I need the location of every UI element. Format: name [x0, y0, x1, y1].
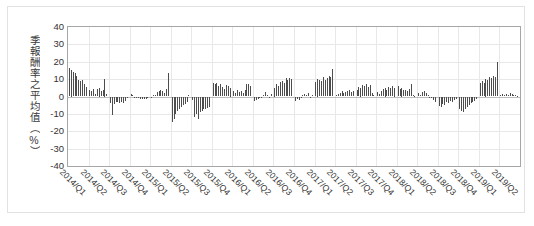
- bar: [414, 96, 415, 97]
- bar: [491, 78, 492, 96]
- bar: [160, 90, 161, 97]
- bar: [243, 93, 244, 97]
- bar: [448, 97, 449, 104]
- bar: [99, 88, 100, 97]
- bar: [366, 84, 367, 97]
- y-axis-tick-labels: 403020100-10-20-30-40: [38, 20, 64, 172]
- bar: [452, 97, 453, 103]
- bar: [200, 97, 201, 113]
- bar: [127, 97, 128, 98]
- bar: [308, 93, 309, 96]
- bar-series: [68, 27, 520, 166]
- bar: [250, 86, 251, 96]
- bar: [327, 78, 328, 96]
- bar: [431, 97, 432, 99]
- bar: [69, 68, 70, 96]
- bar: [235, 93, 236, 96]
- bar: [446, 97, 447, 102]
- bar: [112, 97, 113, 116]
- bar: [209, 97, 210, 107]
- bar: [401, 88, 402, 97]
- bar: [278, 86, 279, 96]
- bar: [222, 87, 223, 97]
- bar: [360, 88, 361, 97]
- bar: [196, 97, 197, 115]
- y-tick-label: -20: [50, 125, 64, 136]
- bar: [495, 77, 496, 97]
- bar: [487, 80, 488, 96]
- bar: [185, 97, 186, 104]
- bar: [345, 92, 346, 97]
- bar: [248, 84, 249, 96]
- bar: [343, 93, 344, 96]
- bar: [97, 89, 98, 96]
- y-tick-label: 10: [53, 73, 64, 84]
- bar: [368, 87, 369, 96]
- bar: [237, 90, 238, 96]
- y-tick-label: 0: [59, 90, 64, 101]
- bar: [162, 91, 163, 96]
- bar: [117, 97, 118, 102]
- bar: [474, 97, 475, 102]
- bar: [405, 90, 406, 97]
- bar: [110, 97, 111, 104]
- bar: [123, 97, 124, 103]
- bar: [132, 95, 133, 96]
- y-tick-label: 40: [53, 21, 64, 32]
- x-axis-tick-labels: 2014/Q12014/Q22014/Q32014/Q42015/Q12015/…: [67, 167, 527, 226]
- bar: [407, 91, 408, 96]
- bar: [493, 76, 494, 97]
- bar: [276, 84, 277, 96]
- bar: [403, 90, 404, 96]
- bar: [216, 83, 217, 97]
- bar: [246, 84, 247, 97]
- bar: [370, 85, 371, 96]
- bar: [500, 95, 501, 96]
- bar: [91, 91, 92, 97]
- bar: [239, 92, 240, 97]
- bar: [317, 79, 318, 96]
- bar: [192, 97, 193, 100]
- bar: [497, 62, 498, 96]
- bar: [187, 97, 188, 102]
- bar: [198, 97, 199, 119]
- bar: [353, 91, 354, 96]
- bar: [175, 97, 176, 114]
- bar: [467, 97, 468, 107]
- bar: [424, 91, 425, 96]
- bar: [321, 81, 322, 97]
- bar: [147, 97, 148, 98]
- bar: [409, 89, 410, 96]
- bar: [299, 97, 300, 100]
- bar: [456, 97, 457, 99]
- bar: [256, 97, 257, 100]
- bar: [465, 97, 466, 109]
- bar: [450, 97, 451, 102]
- y-axis-title: 季報酬率之平均值（%）: [20, 35, 40, 170]
- bar: [114, 97, 115, 105]
- bar: [301, 97, 302, 98]
- bar: [515, 95, 516, 97]
- bar: [203, 97, 204, 110]
- bar: [513, 95, 514, 96]
- bar: [71, 70, 72, 96]
- y-tick-label: -10: [50, 107, 64, 118]
- bar: [76, 76, 77, 97]
- bar: [418, 93, 419, 96]
- bar: [476, 97, 477, 100]
- bar: [142, 97, 143, 99]
- bar: [125, 97, 126, 102]
- bar: [351, 92, 352, 96]
- bar: [506, 94, 507, 97]
- bar: [383, 89, 384, 97]
- bar: [508, 95, 509, 97]
- bar: [261, 97, 262, 98]
- bar: [213, 83, 214, 96]
- bar: [151, 97, 152, 99]
- bar: [347, 91, 348, 97]
- bar: [459, 97, 460, 110]
- bar: [306, 95, 307, 97]
- bar: [310, 97, 311, 98]
- bar: [330, 77, 331, 97]
- bar: [336, 95, 337, 97]
